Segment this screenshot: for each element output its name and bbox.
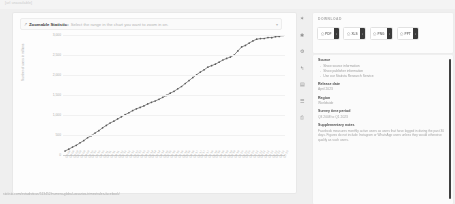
data-point bbox=[94, 132, 96, 134]
arrow-right-icon: → bbox=[318, 64, 321, 68]
download-button-row: ⎙PDF↓⎙XLS↓⎙PNG↓⎙PPT↓ bbox=[317, 27, 419, 40]
download-pdf-arrow-icon[interactable]: ↓ bbox=[334, 28, 339, 39]
table-view-icon[interactable]: ▤ bbox=[298, 80, 307, 89]
y-tick-label: 1,000 bbox=[53, 113, 61, 117]
download-xls-label: XLS bbox=[351, 32, 357, 36]
data-point bbox=[83, 140, 85, 142]
download-xls-arrow-icon[interactable]: ↓ bbox=[360, 28, 365, 39]
source-link-list: →Show source information→Show publisher … bbox=[318, 64, 447, 78]
data-point bbox=[267, 37, 269, 39]
chart-plot-area[interactable]: Number of users in millions 05001,0001,5… bbox=[23, 35, 287, 167]
arrow-right-icon: → bbox=[318, 69, 321, 73]
data-point bbox=[154, 100, 156, 102]
data-point bbox=[241, 46, 243, 48]
data-point bbox=[192, 77, 194, 79]
data-point bbox=[252, 40, 254, 42]
data-point bbox=[263, 38, 265, 40]
data-point bbox=[248, 42, 250, 44]
gridline bbox=[63, 135, 285, 136]
data-point bbox=[147, 103, 149, 105]
y-tick-label: 1,500 bbox=[53, 93, 61, 97]
data-point bbox=[169, 92, 171, 94]
chart-tool-rail: ✶✱⚙↰▤☰⎙ bbox=[296, 14, 308, 138]
download-pdf-button[interactable]: ⎙PDF↓ bbox=[317, 27, 340, 40]
data-point bbox=[271, 37, 273, 39]
data-point bbox=[113, 120, 115, 122]
data-point bbox=[121, 116, 123, 118]
chart-series-line bbox=[63, 35, 285, 157]
source-link-label: Show source information bbox=[323, 64, 359, 68]
data-point bbox=[184, 83, 186, 85]
download-ppt-arrow-icon[interactable]: ↓ bbox=[413, 28, 418, 39]
source-link-0[interactable]: →Show source information bbox=[318, 64, 447, 68]
data-point bbox=[275, 36, 277, 38]
gridline bbox=[63, 95, 285, 96]
xls-file-icon: ⎙ bbox=[347, 31, 350, 36]
release-date-heading: Release date bbox=[318, 82, 447, 86]
page-url-text: statista.com/estadisticas/513452/numero-… bbox=[3, 192, 120, 196]
y-axis-title: Number of users in millions bbox=[21, 44, 25, 81]
share-icon[interactable]: ↰ bbox=[298, 64, 307, 73]
list-view-icon[interactable]: ☰ bbox=[298, 97, 307, 106]
download-png-arrow-icon[interactable]: ↓ bbox=[387, 28, 392, 39]
download-png-button[interactable]: ⎙PNG↓ bbox=[370, 27, 393, 40]
data-point bbox=[222, 59, 224, 61]
data-point bbox=[72, 146, 74, 148]
zoom-select-icon: ↗ bbox=[24, 21, 28, 26]
source-link-1[interactable]: →Show publisher information bbox=[318, 69, 447, 73]
y-tick-label: 500 bbox=[55, 133, 61, 137]
data-point bbox=[109, 122, 111, 124]
data-point bbox=[158, 98, 160, 100]
data-point bbox=[230, 56, 232, 58]
favorite-icon[interactable]: ✶ bbox=[298, 14, 307, 23]
info-scrollbar[interactable] bbox=[449, 59, 451, 199]
data-point bbox=[256, 38, 258, 40]
gridline bbox=[63, 55, 285, 56]
chevron-down-icon[interactable]: ▾ bbox=[276, 22, 278, 27]
data-point bbox=[214, 63, 216, 65]
browser-top-strip: [url unavailable] bbox=[0, 0, 455, 9]
data-point bbox=[102, 127, 104, 129]
data-point bbox=[245, 45, 247, 47]
data-point bbox=[237, 50, 239, 52]
print-icon[interactable]: ⎙ bbox=[298, 113, 307, 122]
y-tick-label: 3,000 bbox=[53, 33, 61, 37]
y-tick-label: 0 bbox=[59, 153, 61, 157]
pdf-file-icon: ⎙ bbox=[321, 31, 324, 36]
png-file-icon: ⎙ bbox=[373, 31, 376, 36]
data-point bbox=[211, 65, 213, 67]
survey-period-value: Q3 2008 to Q1 2023 bbox=[318, 115, 447, 119]
source-link-2[interactable]: →Use our Statista Research Service bbox=[318, 74, 447, 78]
zoomable-statistic-bar[interactable]: ↗ Zoomable Statistic: Select the range i… bbox=[20, 18, 282, 30]
zoomable-statistic-label: Zoomable Statistic: bbox=[29, 22, 69, 27]
data-point bbox=[151, 101, 153, 103]
download-pdf-label: PDF bbox=[325, 32, 331, 36]
top-ghost-text: [url unavailable] bbox=[5, 1, 32, 5]
supplementary-notes-text: Facebook measures monthly active users a… bbox=[318, 129, 447, 143]
gridline bbox=[63, 75, 285, 76]
data-point bbox=[143, 105, 145, 107]
release-date-value: April 2023 bbox=[318, 87, 447, 91]
settings-gear-icon[interactable]: ⚙ bbox=[298, 47, 307, 56]
arrow-right-icon: → bbox=[318, 74, 321, 78]
data-point bbox=[105, 125, 107, 127]
region-heading: Region bbox=[318, 96, 447, 100]
download-xls-button[interactable]: ⎙XLS↓ bbox=[343, 27, 366, 40]
download-ppt-button[interactable]: ⎙PPT↓ bbox=[397, 27, 420, 40]
data-point bbox=[218, 61, 220, 63]
zoomable-statistic-hint: Select the range in the chart you want t… bbox=[71, 22, 169, 27]
data-point bbox=[139, 107, 141, 109]
info-icon[interactable]: ✱ bbox=[298, 31, 307, 40]
data-point bbox=[162, 97, 164, 99]
data-point bbox=[199, 71, 201, 73]
survey-period-heading: Survey time period bbox=[318, 109, 447, 113]
download-png-label: PNG bbox=[378, 32, 385, 36]
y-axis-ticks: 05001,0001,5002,0002,5003,000 bbox=[37, 35, 61, 155]
supplementary-notes-heading: Supplementary notes bbox=[318, 123, 447, 127]
data-point bbox=[181, 86, 183, 88]
x-axis-ticks: Q3 '08Q4 '08Q1 '09Q2 '09Q3 '09Q4 '09Q1 '… bbox=[63, 157, 287, 183]
data-point bbox=[226, 58, 228, 60]
data-point bbox=[64, 150, 66, 152]
data-point bbox=[173, 91, 175, 93]
data-point bbox=[132, 110, 134, 112]
